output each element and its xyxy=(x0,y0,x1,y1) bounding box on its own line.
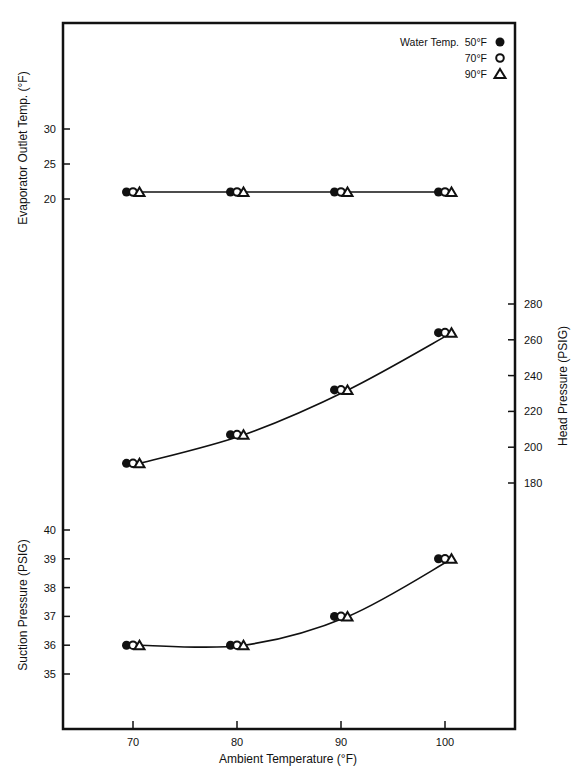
legend-label-50f: 50°F xyxy=(465,36,487,48)
suction-pressure-axis-title: Suction Pressure (PSIG) xyxy=(16,539,30,670)
y-tick-label: 39 xyxy=(44,553,56,565)
y-tick-label: 20 xyxy=(44,193,56,205)
y-tick-label: 280 xyxy=(524,298,542,310)
y-tick-label: 38 xyxy=(44,582,56,594)
legend-label-70f: 70°F xyxy=(465,52,487,64)
suction-pressure-axis: 353637383940 xyxy=(44,524,70,680)
evaporator-axis: 202530 xyxy=(44,123,70,205)
legend: Water Temp. 50°F 70°F 90°F xyxy=(400,36,505,80)
y-tick-label: 180 xyxy=(524,477,542,489)
y-tick-label: 40 xyxy=(44,524,56,536)
evaporator-axis-title: Evaporator Outlet Temp. (°F) xyxy=(16,71,30,224)
y-tick-label: 240 xyxy=(524,370,542,382)
y-tick-label: 36 xyxy=(44,639,56,651)
series-markers xyxy=(122,188,457,650)
filled-circle-icon xyxy=(496,38,505,47)
series-curves xyxy=(140,192,452,647)
open-triangle-icon xyxy=(495,69,506,78)
legend-label-90f: 90°F xyxy=(465,68,487,80)
chart: 202530 180200220240260280 353637383940 7… xyxy=(0,0,583,779)
y-tick-label: 200 xyxy=(524,441,542,453)
x-tick-label: 80 xyxy=(231,736,243,748)
y-tick-label: 37 xyxy=(44,610,56,622)
x-tick-label: 90 xyxy=(335,736,347,748)
x-axis: 708090100 xyxy=(127,721,454,748)
legend-title: Water Temp. xyxy=(400,36,459,48)
suction-pressure-curve xyxy=(140,559,452,648)
y-tick-label: 220 xyxy=(524,405,542,417)
open-circle-icon xyxy=(496,54,504,62)
x-axis-title: Ambient Temperature (°F) xyxy=(219,752,357,766)
head-pressure-curve xyxy=(140,333,452,464)
plot-frame xyxy=(63,23,515,729)
y-tick-label: 35 xyxy=(44,668,56,680)
x-tick-label: 70 xyxy=(127,736,139,748)
y-tick-label: 260 xyxy=(524,334,542,346)
head-pressure-axis: 180200220240260280 xyxy=(508,298,542,489)
x-tick-label: 100 xyxy=(436,736,454,748)
y-tick-label: 30 xyxy=(44,123,56,135)
head-pressure-axis-title: Head Pressure (PSIG) xyxy=(556,326,570,446)
y-tick-label: 25 xyxy=(44,158,56,170)
